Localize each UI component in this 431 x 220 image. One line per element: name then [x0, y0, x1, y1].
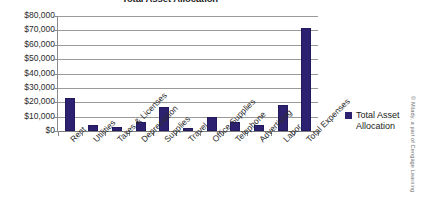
- bar: [301, 28, 311, 132]
- y-axis-tick-label: $80,000: [3, 11, 55, 20]
- y-axis-tick-mark: [53, 117, 57, 118]
- gridline: [58, 88, 318, 89]
- y-axis-tick-label: $30,000: [3, 83, 55, 92]
- legend: Total Asset Allocation: [345, 110, 419, 132]
- chart-title: Total Asset Allocation: [0, 0, 340, 4]
- y-axis-tick-mark: [53, 16, 57, 17]
- y-axis-tick-label: $10,000: [3, 112, 55, 121]
- y-axis-tick-mark: [53, 131, 57, 132]
- y-axis-tick-mark: [53, 88, 57, 89]
- copyright-credit: © Milady, a part of Cengage Learning: [410, 96, 416, 192]
- y-axis-tick-label: $70,000: [3, 25, 55, 34]
- y-axis-tick-mark: [53, 30, 57, 31]
- y-axis-tick-mark: [53, 102, 57, 103]
- y-axis-tick-mark: [53, 45, 57, 46]
- gridline: [58, 59, 318, 60]
- y-axis-tick-label: $20,000: [3, 97, 55, 106]
- y-axis-tick-mark: [53, 74, 57, 75]
- bar-chart: Total Asset Allocation $80,000$70,000$60…: [0, 0, 431, 220]
- y-axis-tick-label: $60,000: [3, 40, 55, 49]
- x-axis-tick-mark: [58, 131, 59, 136]
- bar: [65, 98, 75, 131]
- gridline: [58, 45, 318, 46]
- gridline: [58, 74, 318, 75]
- y-axis-tick-label: $0: [3, 126, 55, 135]
- legend-swatch-icon: [345, 112, 352, 119]
- y-axis-tick-label: $40,000: [3, 69, 55, 78]
- gridline: [58, 30, 318, 31]
- gridline: [58, 16, 318, 17]
- y-axis-tick-mark: [53, 59, 57, 60]
- y-axis-tick-label: $50,000: [3, 54, 55, 63]
- gridline: [58, 102, 318, 103]
